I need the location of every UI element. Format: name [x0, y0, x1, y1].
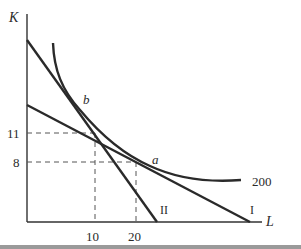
isocost-line-i	[27, 105, 250, 222]
y-tick-8: 8	[13, 155, 20, 170]
isoquant-label: 200	[252, 174, 272, 189]
point-a-label: a	[152, 152, 159, 167]
point-b-label: b	[83, 92, 90, 107]
x-tick-10: 10	[86, 229, 99, 244]
y-tick-11: 11	[7, 126, 20, 141]
isoquant-isocost-diagram: K L 11 8 10 20 b a 200 II I	[0, 0, 301, 249]
isocost-line-ii	[27, 40, 157, 222]
x-axis-label: L	[265, 214, 274, 229]
line-i-label: I	[250, 203, 254, 217]
line-ii-label: II	[160, 203, 168, 217]
isoquant-200	[53, 43, 241, 181]
bottom-divider-bar	[0, 245, 301, 249]
x-tick-20: 20	[128, 229, 141, 244]
y-axis-label: K	[8, 10, 19, 25]
